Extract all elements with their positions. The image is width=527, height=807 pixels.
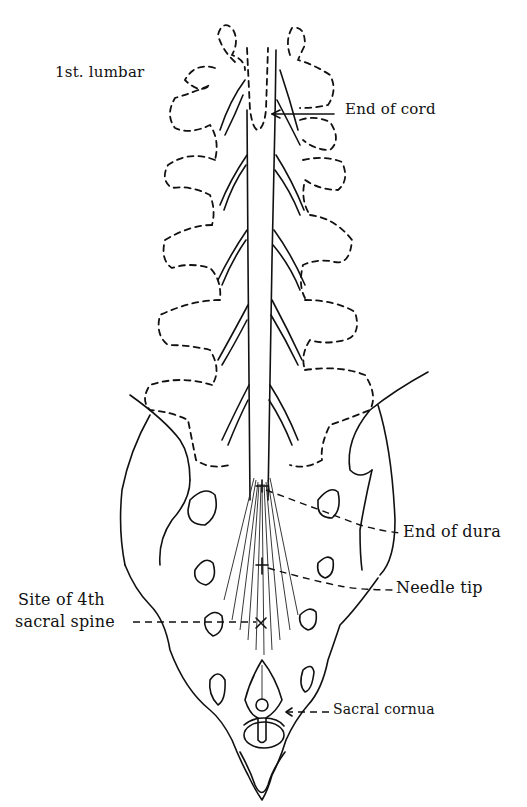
dural-sac [247, 48, 268, 130]
label-site-of-4th: Site of 4th [18, 590, 105, 609]
sacrum-outline [125, 470, 378, 800]
lumbar-vertebrae-outline [145, 25, 373, 466]
iliac-crests [121, 372, 428, 575]
caudal-anatomy-diagram: 1st. lumbar End of cord End of dura Need… [0, 0, 527, 807]
end-of-dura-leader [266, 490, 402, 533]
label-end-of-dura: End of dura [403, 522, 501, 541]
label-end-of-cord: End of cord [345, 100, 436, 118]
label-needle-tip: Needle tip [396, 578, 483, 597]
fourth-sacral-spine-marker [256, 618, 266, 628]
label-first-lumbar: 1st. lumbar [55, 63, 144, 81]
label-sacral-cornua: Sacral cornua [333, 701, 435, 717]
leader-lines [133, 110, 402, 716]
spine-illustration [0, 0, 527, 807]
needle-tip-marker [256, 558, 268, 574]
label-sacral-spine: sacral spine [15, 612, 115, 631]
